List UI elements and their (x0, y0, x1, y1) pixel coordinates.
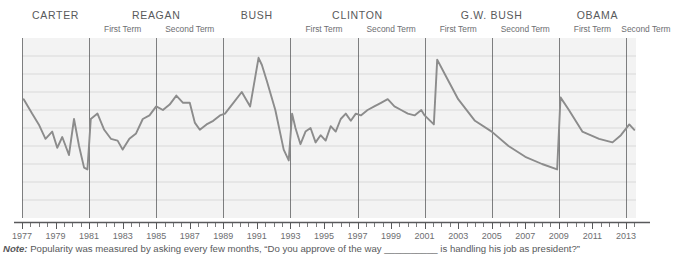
chart-note: Note: Popularity was measured by asking … (3, 243, 655, 254)
x-axis-year-label: 2003 (442, 231, 474, 241)
x-axis-year-label: 1979 (40, 231, 72, 241)
x-axis-year-label: 2007 (509, 231, 541, 241)
x-axis: 1977197919811983198519871989199119931995… (0, 216, 658, 242)
x-axis-year-label: 1987 (174, 231, 206, 241)
president-label-clinton: CLINTON (298, 9, 418, 21)
x-axis-year-label: 2013 (610, 231, 642, 241)
president-label-gw-bush: G.W. BUSH (432, 9, 552, 21)
x-axis-ticks (0, 216, 658, 230)
approval-line-chart-svg (22, 38, 636, 218)
x-axis-year-label: 1989 (207, 231, 239, 241)
x-axis-year-label: 2005 (476, 231, 508, 241)
note-text: Popularity was measured by asking every … (30, 243, 580, 254)
term-label-obama-second: Second Term (601, 24, 675, 34)
x-axis-year-label: 1983 (107, 231, 139, 241)
x-axis-year-label: 1997 (342, 231, 374, 241)
president-header: CARTER REAGAN First Term Second Term BUS… (0, 0, 658, 38)
term-label-reagan-second: Second Term (145, 24, 235, 34)
x-axis-year-label: 1985 (140, 231, 172, 241)
approval-rating-line (24, 58, 635, 170)
note-label: Note: (3, 243, 28, 254)
x-axis-year-label: 2009 (543, 231, 575, 241)
president-label-obama: OBAMA (537, 9, 657, 21)
x-axis-year-label: 2001 (409, 231, 441, 241)
plot-area (22, 38, 636, 218)
x-axis-year-label: 1991 (241, 231, 273, 241)
x-axis-year-label: 1999 (375, 231, 407, 241)
x-axis-year-label: 1993 (274, 231, 306, 241)
x-axis-year-label: 2011 (576, 231, 608, 241)
x-axis-year-label: 1977 (6, 231, 38, 241)
x-axis-year-label: 1981 (73, 231, 105, 241)
x-axis-year-label: 1995 (308, 231, 340, 241)
